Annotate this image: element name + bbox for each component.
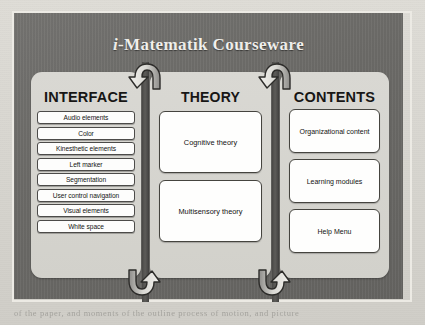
list-item[interactable]: Segmentation xyxy=(37,173,135,186)
theory-item-list: Cognitive theory Multisensory theory xyxy=(159,111,262,242)
curved-arrow-top-left-icon xyxy=(126,57,166,91)
page-bleed-text-1: of the paper, and moments of the outline… xyxy=(14,308,299,318)
title-rest: -Matematik Courseware xyxy=(118,35,304,54)
list-item[interactable]: Multisensory theory xyxy=(159,180,262,242)
list-item[interactable]: Visual elements xyxy=(37,204,135,217)
diagram-title: i-Matematik Courseware xyxy=(14,35,403,55)
column-heading-contents: CONTENTS xyxy=(280,89,389,105)
column-heading-theory: THEORY xyxy=(150,89,271,105)
curved-arrow-bottom-right-icon xyxy=(256,268,296,302)
list-item[interactable]: Organizational content xyxy=(289,109,380,153)
list-item[interactable]: Learning modules xyxy=(289,159,380,203)
list-item[interactable]: White space xyxy=(37,220,135,233)
column-interface[interactable]: INTERFACE Audio elements Color Kinesthet… xyxy=(31,72,141,278)
curved-arrow-top-right-icon xyxy=(256,57,296,91)
column-heading-interface: INTERFACE xyxy=(31,89,141,105)
list-item[interactable]: User control navigation xyxy=(37,189,135,202)
interface-item-list: Audio elements Color Kinesthetic element… xyxy=(37,111,135,233)
curved-arrow-bottom-left-icon xyxy=(126,268,166,302)
connector-bar-theory-contents xyxy=(272,62,279,302)
list-item[interactable]: Left marker xyxy=(37,158,135,171)
column-theory[interactable]: THEORY Cognitive theory Multisensory the… xyxy=(150,72,271,278)
list-item[interactable]: Help Menu xyxy=(289,209,380,253)
connector-bar-interface-theory xyxy=(142,62,149,302)
list-item[interactable]: Audio elements xyxy=(37,111,135,124)
list-item[interactable]: Cognitive theory xyxy=(159,111,262,173)
list-item[interactable]: Kinesthetic elements xyxy=(37,142,135,155)
contents-item-list: Organizational content Learning modules … xyxy=(289,109,380,253)
column-contents[interactable]: CONTENTS Organizational content Learning… xyxy=(280,72,389,278)
list-item[interactable]: Color xyxy=(37,127,135,140)
